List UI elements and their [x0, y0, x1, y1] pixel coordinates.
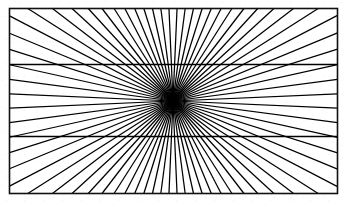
illusion-figure: [0, 0, 347, 205]
illusion-canvas: [0, 0, 347, 205]
